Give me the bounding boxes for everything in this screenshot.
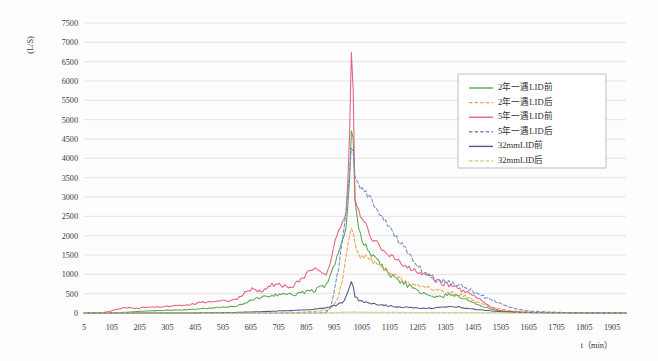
- x-axis-tick-label: 905: [328, 323, 340, 332]
- x-axis-tick-label: 1805: [576, 323, 592, 332]
- x-axis-title: t（min）: [581, 341, 612, 350]
- y-axis-tick-label: 500: [66, 290, 78, 299]
- y-axis-tick-label: 4500: [62, 135, 78, 144]
- x-axis-tick-label: 1105: [382, 323, 398, 332]
- x-axis-tick-label: 1505: [493, 323, 509, 332]
- x-axis-tick-label: 805: [300, 323, 312, 332]
- y-axis-tick-labels: 0500100015002000250030003500400045005000…: [62, 19, 78, 318]
- legend-label-5: 32mmLID前: [498, 139, 543, 150]
- series-line-4: [84, 148, 626, 313]
- x-axis-tick-label: 505: [217, 323, 229, 332]
- legend-label-4: 5年一遇LID后: [498, 125, 553, 136]
- y-axis-tick-label: 2500: [62, 212, 78, 221]
- x-axis-tick-label: 1205: [409, 323, 425, 332]
- x-axis-tick-label: 705: [272, 323, 284, 332]
- x-axis-tick-label: 605: [245, 323, 257, 332]
- x-axis-tick-label: 1305: [437, 323, 453, 332]
- y-axis-tick-label: 0: [74, 309, 78, 318]
- x-axis-tick-label: 305: [161, 323, 173, 332]
- y-axis-tick-label: 5500: [62, 96, 78, 105]
- x-axis-tick-label: 105: [106, 323, 118, 332]
- x-axis-tick-labels: 5105205305405505605705805905100511051205…: [82, 323, 620, 332]
- y-axis-tick-label: 6000: [62, 77, 78, 86]
- y-axis-tick-label: 4000: [62, 154, 78, 163]
- legend-label-2: 2年一遇LID后: [498, 96, 553, 107]
- x-axis-tick-label: 405: [189, 323, 201, 332]
- y-axis-tick-label: 7000: [62, 38, 78, 47]
- y-axis-tick-label: 1000: [62, 270, 78, 279]
- x-axis-tick-label: 1605: [521, 323, 537, 332]
- y-axis-title: (L/S): [26, 36, 35, 54]
- x-axis-tick-label: 5: [82, 323, 86, 332]
- y-axis-tick-label: 5000: [62, 116, 78, 125]
- x-axis-tick-label: 1905: [604, 323, 620, 332]
- legend-label-1: 2年一遇LID前: [498, 81, 553, 92]
- y-axis-tick-label: 3500: [62, 174, 78, 183]
- chart-canvas: 0500100015002000250030003500400045005000…: [0, 0, 658, 361]
- y-axis-tick-label: 1500: [62, 251, 78, 260]
- y-axis-tick-label: 6500: [62, 58, 78, 67]
- y-axis-tick-label: 7500: [62, 19, 78, 28]
- x-axis-tick-label: 205: [133, 323, 145, 332]
- x-axis-tick-label: 1405: [465, 323, 481, 332]
- y-axis-tick-label: 3000: [62, 193, 78, 202]
- series-line-2: [84, 229, 626, 313]
- x-axis-tick-label: 1705: [548, 323, 564, 332]
- legend-label-6: 32mmLID后: [498, 155, 543, 165]
- legend: 2年一遇LID前2年一遇LID后5年一遇LID前5年一遇LID后32mmLID前…: [458, 74, 606, 168]
- legend-label-3: 5年一遇LID前: [498, 110, 553, 121]
- y-axis-tick-label: 2000: [62, 232, 78, 241]
- series-line-5: [84, 282, 626, 313]
- flow-hydrograph-chart: 0500100015002000250030003500400045005000…: [0, 0, 658, 361]
- x-axis-tick-label: 1005: [354, 323, 370, 332]
